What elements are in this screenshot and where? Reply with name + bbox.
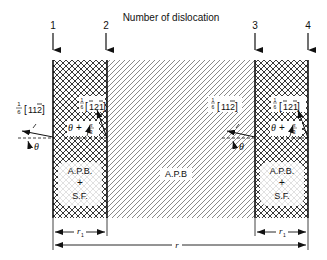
svg-text:1: 1: [274, 97, 277, 103]
label-left-apb-sf: A.P.B. + S.F.: [58, 162, 102, 206]
svg-text:A.P.B.: A.P.B.: [68, 166, 92, 176]
svg-text:]: ]: [103, 101, 106, 112]
dimension-r: r: [55, 240, 306, 250]
svg-text:+: +: [77, 177, 83, 188]
svg-text:θ: θ: [271, 122, 276, 133]
svg-text:3: 3: [252, 20, 258, 31]
svg-text:+: +: [76, 122, 82, 133]
svg-text:A.P.B.: A.P.B.: [270, 166, 294, 176]
svg-text:6: 6: [17, 109, 21, 115]
svg-text:[: [: [24, 104, 27, 115]
svg-text:[: [: [279, 101, 282, 112]
svg-text:]: ]: [42, 104, 45, 115]
dislocation-marker-2: 2: [103, 20, 109, 50]
svg-text:6: 6: [212, 104, 215, 110]
svg-text:2: 2: [103, 20, 109, 31]
burgers-vector-right-outer: 1 6 [ 11 2 ]: [208, 96, 242, 112]
svg-text:+: +: [279, 122, 285, 133]
svg-text:121: 121: [89, 102, 104, 112]
r1-subscript: 1: [81, 232, 84, 238]
svg-text:θ: θ: [239, 141, 244, 152]
svg-text:S.F.: S.F.: [274, 191, 290, 201]
svg-text:11: 11: [28, 105, 37, 115]
burgers-vector-right-inner: 1 6 [ 121 ]: [271, 96, 306, 112]
dislocation-marker-1: 1: [50, 20, 56, 50]
svg-text:θ: θ: [34, 141, 39, 152]
svg-text:A.P.B: A.P.B: [165, 169, 187, 179]
label-center-apb: A.P.B: [160, 168, 192, 180]
svg-text:r: r: [175, 240, 179, 250]
region-center-hatch: [107, 60, 255, 218]
svg-text:11: 11: [221, 102, 230, 112]
svg-text:1: 1: [17, 101, 21, 107]
svg-text:6: 6: [274, 104, 277, 110]
svg-text:1: 1: [283, 232, 286, 238]
svg-text:+: +: [279, 177, 285, 188]
svg-text:S.F.: S.F.: [72, 191, 88, 201]
svg-text:[: [: [217, 101, 220, 112]
diagram-title: Number of dislocation: [123, 12, 220, 23]
svg-text:1: 1: [212, 97, 215, 103]
burgers-vector-left-outer: 1 6 [ 11 2 ]: [16, 101, 45, 115]
burgers-vector-left-inner: 1 6 [ 121 ]: [79, 96, 106, 112]
dislocation-diagram: Number of dislocation 1 2 3 4 1 6 [ 11 2…: [0, 0, 327, 260]
svg-text:θ: θ: [68, 122, 73, 133]
svg-text:1: 1: [50, 20, 56, 31]
angle-annotation-left-outer: θ: [18, 124, 53, 152]
dislocation-marker-4: 4: [305, 20, 311, 50]
svg-text:]: ]: [235, 101, 238, 112]
svg-text:6: 6: [81, 104, 84, 110]
svg-text:121: 121: [283, 102, 298, 112]
dislocation-marker-3: 3: [252, 20, 258, 50]
label-right-apb-sf: A.P.B. + S.F.: [260, 162, 304, 206]
svg-text:4: 4: [305, 20, 311, 31]
svg-text:1: 1: [81, 97, 84, 103]
svg-text:[: [: [85, 101, 88, 112]
